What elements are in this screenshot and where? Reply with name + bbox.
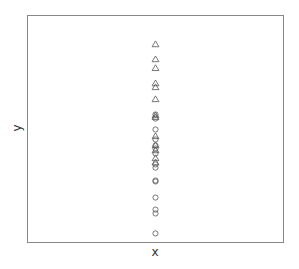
x-axis-label: x (151, 245, 158, 259)
scatter-chart: x y (0, 0, 299, 269)
circle-point (153, 127, 158, 132)
triangle-point (152, 65, 159, 71)
triangle-point (152, 80, 159, 86)
triangle-point (152, 96, 159, 102)
y-axis-label: y (10, 124, 24, 131)
circle-point (153, 231, 158, 236)
points-layer (152, 41, 159, 236)
triangle-point (152, 56, 159, 62)
triangle-point (152, 41, 159, 47)
circle-point (153, 165, 158, 170)
circle-point (153, 195, 158, 200)
circle-point (153, 211, 158, 216)
plot-frame (28, 16, 284, 243)
